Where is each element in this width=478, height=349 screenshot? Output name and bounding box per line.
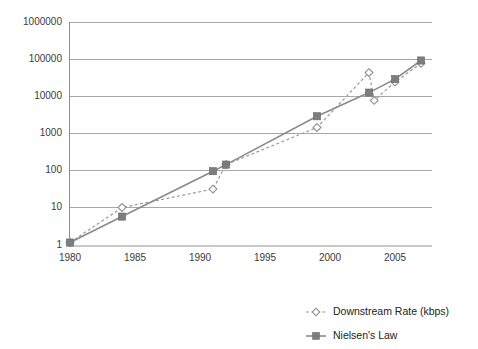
- data-point-marker-nielsen: [313, 113, 320, 120]
- x-tick-label: 1995: [254, 252, 277, 263]
- y-tick-label: 1000: [40, 127, 63, 138]
- x-tick-label: 1990: [189, 252, 212, 263]
- data-point-marker-nielsen: [209, 168, 216, 175]
- legend-label-nielsen: Nielsen's Law: [333, 329, 398, 341]
- x-tick-labels: 1980 1985 1990 1995 2000 2005: [59, 252, 407, 263]
- line-chart: 1000000 100000 10000 1000 100 10 1 1980 …: [0, 0, 478, 349]
- y-tick-label: 100: [45, 164, 62, 175]
- legend-nielsen-marker-icon: [313, 333, 320, 340]
- data-point-marker-downstream: [313, 124, 321, 132]
- data-point-marker-nielsen: [417, 57, 424, 64]
- data-point-marker-nielsen: [118, 213, 125, 220]
- gridlines: [69, 23, 432, 208]
- legend-downstream-marker-icon: [312, 308, 320, 316]
- data-point-marker-downstream: [118, 204, 126, 212]
- x-tick-label: 2000: [319, 252, 342, 263]
- data-point-marker-nielsen: [365, 89, 372, 96]
- legend-label-downstream: Downstream Rate (kbps): [333, 305, 449, 317]
- y-tick-label: 100000: [29, 53, 63, 64]
- y-tick-label: 1000000: [23, 16, 62, 27]
- y-tick-label: 10: [51, 201, 63, 212]
- legend: Downstream Rate (kbps) Nielsen's Law: [306, 305, 449, 341]
- x-tick-label: 1980: [59, 252, 82, 263]
- x-tick-label: 2005: [384, 252, 407, 263]
- y-tick-labels: 1000000 100000 10000 1000 100 10 1: [23, 16, 62, 250]
- data-point-marker-downstream: [209, 185, 217, 193]
- data-point-marker-nielsen: [222, 161, 229, 168]
- chart-container: 1000000 100000 10000 1000 100 10 1 1980 …: [0, 0, 478, 349]
- y-tick-label: 1: [56, 239, 62, 250]
- data-point-marker-nielsen: [66, 239, 73, 246]
- data-point-marker-nielsen: [391, 76, 398, 83]
- x-tick-label: 1985: [124, 252, 147, 263]
- y-tick-label: 10000: [34, 90, 62, 101]
- series-layer: [66, 57, 425, 247]
